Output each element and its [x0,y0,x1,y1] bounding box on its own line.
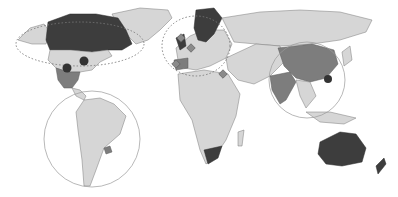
land-south-america [76,98,126,186]
marker-dot-usa-central[interactable] [63,64,72,73]
world-map [0,0,398,197]
land-canada [46,14,132,52]
land-alaska [18,24,50,44]
land-australia [318,132,366,166]
land-southeast-asia [296,80,316,108]
land-indonesia [306,112,356,124]
land-central-america [72,88,86,100]
marker-dot-east-china[interactable] [324,75,332,83]
land-japan [342,46,352,66]
marker-dot-usa-east[interactable] [80,57,89,66]
land-russia [222,10,372,46]
land-new-zealand [376,158,386,174]
land-madagascar [238,130,244,146]
